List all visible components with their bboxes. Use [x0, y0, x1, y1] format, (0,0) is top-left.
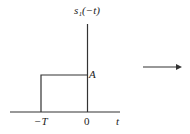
rectangular-pulse	[41, 75, 88, 112]
tick-label-neg-T: −T	[34, 115, 48, 127]
tick-label-zero: 0	[84, 115, 90, 127]
x-axis-label: t	[116, 115, 119, 127]
amplitude-label: A	[89, 68, 96, 80]
arrow-right-icon	[176, 64, 182, 70]
y-axis-label: s₁(−t)	[74, 4, 100, 16]
plot-canvas	[0, 0, 190, 134]
signal-diagram: s₁(−t) A −T 0 t	[0, 0, 190, 134]
